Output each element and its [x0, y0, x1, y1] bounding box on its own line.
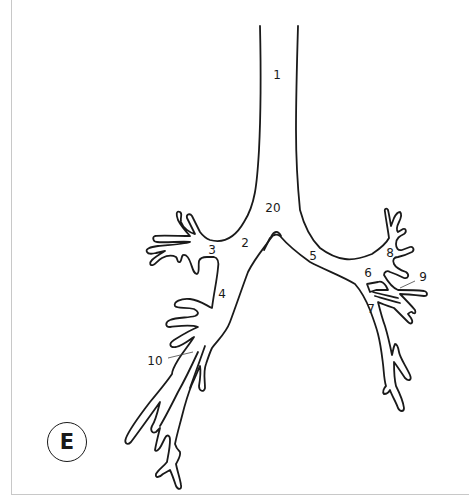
leader-line-9	[400, 281, 415, 288]
label-2: 2	[241, 237, 249, 249]
label-4: 4	[218, 288, 226, 300]
right-lateral-branch	[373, 292, 400, 303]
label-3: 3	[208, 244, 216, 256]
label-1: 1	[273, 69, 281, 81]
panel-letter-badge: E	[47, 422, 87, 462]
label-20: 20	[265, 202, 280, 214]
right-lower-branch-lumen	[367, 282, 388, 292]
label-6: 6	[364, 267, 372, 279]
label-7: 7	[367, 303, 375, 315]
label-5: 5	[309, 250, 317, 262]
label-8: 8	[386, 247, 394, 259]
trachea-left-wall	[125, 26, 427, 489]
label-10: 10	[147, 355, 162, 367]
label-9: 9	[419, 271, 427, 283]
panel-letter: E	[60, 430, 74, 454]
